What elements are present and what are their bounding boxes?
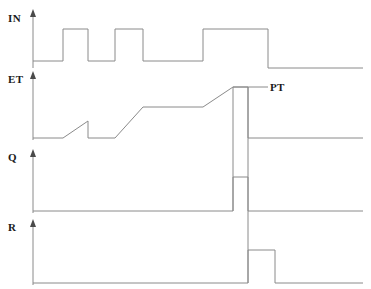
et-waveform [33,87,363,138]
channel-q [30,149,363,213]
q-waveform [33,177,363,211]
signal-label-in: IN [8,13,21,24]
r-axis-arrow-icon [30,219,36,227]
signal-label-q: Q [8,152,17,163]
channel-et [30,71,363,140]
annotation-label-pt: PT [270,82,285,93]
sync-connectors [233,87,248,283]
et-axis-arrow-icon [30,71,36,79]
timing-diagram-canvas [0,0,371,289]
r-waveform [33,250,363,283]
timing-diagram: IN ET Q R PT [0,0,371,289]
channel-r [30,219,363,285]
in-axis-arrow-icon [30,9,36,17]
channel-in [30,9,363,68]
signal-label-et: ET [8,74,23,85]
signal-label-r: R [8,222,16,233]
in-waveform [33,29,363,68]
q-axis-arrow-icon [30,149,36,157]
